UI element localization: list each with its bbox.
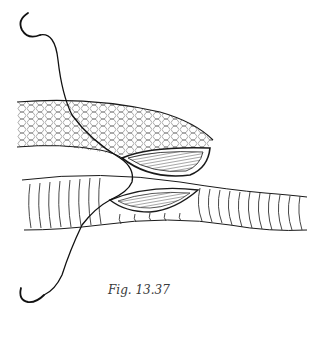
- figure-caption: Fig. 13.37: [108, 283, 170, 297]
- figure: Fig. 13.37: [0, 0, 325, 338]
- suture: [40, 35, 133, 295]
- needle-bottom-icon: [20, 288, 44, 302]
- needle-top-icon: [20, 13, 40, 37]
